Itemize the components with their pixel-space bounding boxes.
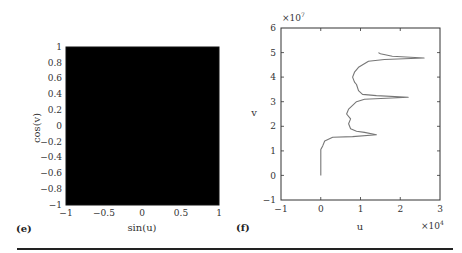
x-tick: −0.5 (93, 208, 115, 218)
panel-e-label: (e) (16, 223, 32, 234)
x-tick: 0 (318, 204, 324, 214)
panel-e-plot-area (66, 47, 219, 205)
panel-f-y-ticks: 6 5 4 3 2 1 0 −1 (263, 23, 277, 205)
y-tick: 0.2 (48, 105, 62, 115)
x-tick: 1 (358, 204, 364, 214)
y-tick: −0.8 (40, 184, 62, 194)
y-tick: 0 (270, 171, 276, 181)
y-tick: −0.2 (40, 137, 62, 147)
panel-f: 6 5 4 3 2 1 0 −1 −1 0 1 2 3 ×107 ×104 u … (236, 11, 444, 233)
y-tick: 5 (270, 48, 276, 58)
panel-e-x-ticks: −1 −0.5 0 0.5 1 (59, 208, 222, 218)
y-tick: −0.6 (40, 168, 62, 178)
panel-e-y-axis-label: cos(v) (31, 113, 42, 143)
figure-divider-rule (17, 248, 453, 250)
x-tick: −1 (59, 208, 72, 218)
y-tick: 0.6 (48, 73, 63, 83)
y-tick: 0.8 (48, 58, 63, 68)
panel-f-plot-frame (281, 28, 440, 200)
panel-f-y-axis-label: v (250, 107, 257, 118)
panel-f-y-exponent: ×107 (282, 11, 305, 23)
panel-f-x-ticks: −1 0 1 2 3 (274, 204, 443, 214)
panel-e: 1 0.8 0.6 0.4 0.2 0 −0.2 −0.4 −0.6 −0.8 … (16, 42, 222, 234)
panel-e-y-ticks: 1 0.8 0.6 0.4 0.2 0 −0.2 −0.4 −0.6 −0.8 … (40, 42, 62, 210)
x-tick: 1 (216, 208, 222, 218)
panel-f-label: (f) (236, 222, 250, 233)
x-tick: 3 (437, 204, 443, 214)
y-tick: 3 (270, 97, 276, 107)
panel-f-x-exponent: ×104 (421, 219, 444, 231)
y-tick: 1 (270, 146, 276, 156)
panel-e-x-axis-label: sin(u) (127, 222, 156, 233)
y-tick: 6 (270, 23, 276, 33)
y-tick: 2 (270, 121, 276, 131)
panel-f-x-axis-label: u (357, 221, 364, 232)
y-tick: 1 (56, 42, 62, 52)
x-tick: 0.5 (174, 208, 189, 218)
y-tick: 4 (270, 72, 276, 82)
x-tick: 0 (139, 208, 145, 218)
figure: 1 0.8 0.6 0.4 0.2 0 −0.2 −0.4 −0.6 −0.8 … (0, 0, 462, 253)
x-tick: −1 (274, 204, 287, 214)
x-tick: 2 (397, 204, 403, 214)
y-tick: −0.4 (40, 152, 62, 162)
y-tick: 0 (56, 121, 62, 131)
y-tick: 0.4 (48, 89, 63, 99)
